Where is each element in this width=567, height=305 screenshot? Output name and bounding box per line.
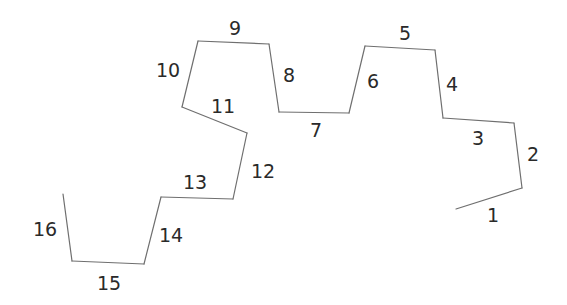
segment-label-11: 11 xyxy=(211,95,235,117)
segment-line-12 xyxy=(233,133,247,199)
segment-line-8 xyxy=(269,44,279,112)
segment-line-10 xyxy=(182,41,198,107)
segment-label-12: 12 xyxy=(251,160,275,182)
segment-label-15: 15 xyxy=(97,272,121,294)
polyline-diagram: 12345678910111213141516 xyxy=(0,0,567,305)
segment-label-2: 2 xyxy=(527,143,539,165)
segment-labels: 12345678910111213141516 xyxy=(33,17,539,294)
segment-line-13 xyxy=(161,197,233,199)
segment-label-9: 9 xyxy=(229,17,241,39)
segment-label-8: 8 xyxy=(283,64,295,86)
segment-label-16: 16 xyxy=(33,218,57,240)
segment-line-3 xyxy=(443,118,514,123)
segment-label-7: 7 xyxy=(310,119,322,141)
segment-label-1: 1 xyxy=(487,204,499,226)
segment-label-5: 5 xyxy=(399,22,411,44)
segment-line-16 xyxy=(63,194,72,261)
segment-label-6: 6 xyxy=(367,70,379,92)
segment-label-14: 14 xyxy=(159,224,183,246)
segment-label-4: 4 xyxy=(446,73,458,95)
segment-line-15 xyxy=(72,261,144,264)
segment-label-10: 10 xyxy=(156,59,180,81)
segment-line-4 xyxy=(435,50,443,118)
segment-line-5 xyxy=(365,46,435,50)
segment-label-13: 13 xyxy=(183,171,207,193)
segment-line-9 xyxy=(198,41,269,44)
segment-line-6 xyxy=(349,46,365,113)
segment-line-2 xyxy=(514,123,522,188)
segment-line-7 xyxy=(279,112,349,113)
segment-label-3: 3 xyxy=(472,127,484,149)
